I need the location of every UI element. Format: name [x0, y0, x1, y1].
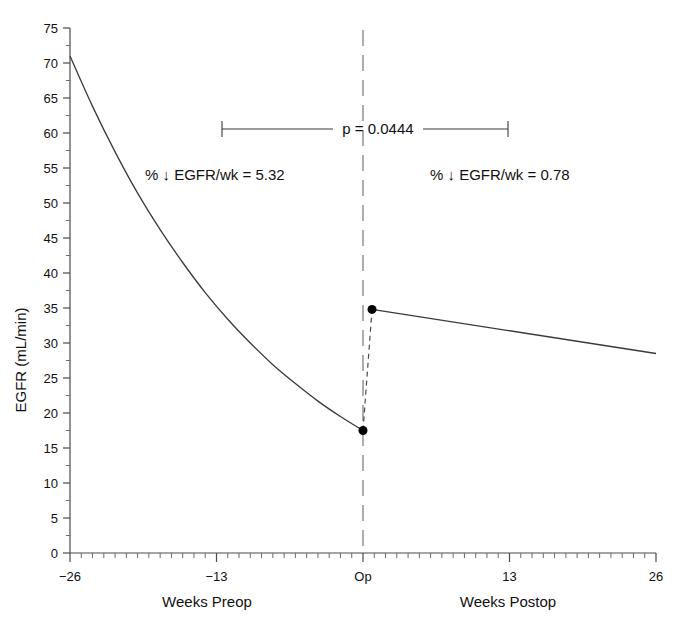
y-tick-label: 55: [44, 161, 58, 176]
y-axis-title: EGFR (mL/min): [12, 307, 29, 412]
y-tick-label: 60: [44, 126, 58, 141]
marker-postop-startpoint: [368, 305, 377, 314]
y-tick-label: 75: [44, 21, 58, 36]
y-tick-label: 65: [44, 91, 58, 106]
egfr-chart-figure: 051015202530354045505560657075 −26−13Op1…: [0, 0, 680, 630]
preop-curve: [70, 56, 363, 431]
y-tick-label: 25: [44, 371, 58, 386]
preop-slope-annotation: % ↓ EGFR/wk = 5.32: [145, 166, 285, 183]
x-axis-title-postop: Weeks Postop: [460, 593, 556, 610]
y-tick-label: 5: [51, 511, 58, 526]
x-tick-label: 13: [502, 569, 516, 584]
postop-slope-annotation: % ↓ EGFR/wk = 0.78: [430, 166, 570, 183]
y-tick-label: 45: [44, 231, 58, 246]
pvalue-label: p = 0.0444: [342, 120, 413, 137]
y-tick-label: 35: [44, 301, 58, 316]
y-tick-label: 15: [44, 441, 58, 456]
y-tick-label: 30: [44, 336, 58, 351]
postop-curve: [372, 309, 656, 353]
x-tick-label: −26: [59, 569, 81, 584]
y-tick-label: 50: [44, 196, 58, 211]
operative-step-line: [363, 309, 372, 430]
y-tick-label: 20: [44, 406, 58, 421]
y-tick-label: 40: [44, 266, 58, 281]
y-axis-ticks: 051015202530354045505560657075: [44, 21, 70, 561]
y-tick-label: 10: [44, 476, 58, 491]
x-tick-label: −13: [205, 569, 227, 584]
y-tick-label: 0: [51, 546, 58, 561]
data-point-markers: [359, 305, 377, 435]
x-axis-title-preop: Weeks Preop: [162, 593, 252, 610]
chart-canvas: 051015202530354045505560657075 −26−13Op1…: [0, 0, 680, 630]
pvalue-bracket: p = 0.0444: [222, 120, 508, 137]
x-tick-label: 26: [649, 569, 663, 584]
x-axis-ticks: −26−13Op1326: [59, 553, 663, 584]
x-tick-label: Op: [354, 569, 371, 584]
y-tick-label: 70: [44, 56, 58, 71]
marker-preop-endpoint: [359, 426, 368, 435]
